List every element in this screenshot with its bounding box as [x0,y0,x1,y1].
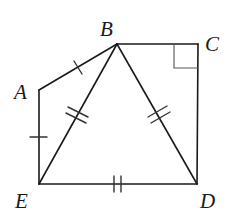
segment-be [39,44,117,184]
label-c: C [205,32,220,56]
tick-ab [74,61,82,74]
label-e: E [14,189,28,210]
right-angle-marker-c [174,44,198,68]
segment-cd [197,44,198,184]
label-b: B [100,17,113,41]
label-a: A [12,80,27,104]
segment-bd [117,44,197,184]
geometry-diagram: B C A E D [0,0,233,210]
figure-svg: B C A E D [0,0,233,210]
label-d: D [199,189,215,210]
